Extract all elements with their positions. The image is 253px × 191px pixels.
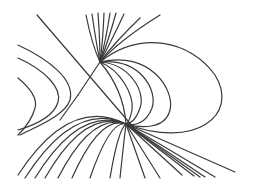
inner-loops [100, 60, 171, 127]
phase-portrait-svg [0, 0, 253, 191]
left-trajectories [18, 45, 71, 135]
upper-fan [86, 13, 160, 62]
homoclinic-loop [100, 43, 222, 133]
trajectories [18, 13, 235, 178]
separatrix-to-fan-lower [60, 95, 78, 120]
node-fan-left [18, 116, 126, 178]
phase-portrait-diagram [0, 0, 253, 191]
